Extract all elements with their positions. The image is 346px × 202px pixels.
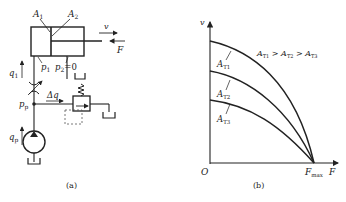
label-A2: A2 — [67, 9, 79, 20]
pilot-line-dashed — [65, 110, 82, 124]
origin-label: O — [201, 167, 209, 177]
label-p1: p1 — [41, 62, 50, 73]
fmax-label: Fmax — [304, 167, 324, 178]
label-dq: Δq — [46, 90, 59, 100]
throttle-valve — [28, 81, 42, 95]
label-v: v — [104, 22, 109, 31]
label-AT1: AT1 — [216, 59, 230, 70]
relation-label: AT1 > AT2 > AT3 — [256, 49, 318, 59]
hydraulic-cylinder — [31, 27, 102, 56]
label-p2: p2=0 — [55, 62, 77, 73]
diagram-canvas: A1 A2 v F p1 p2=0 q1 pp — [0, 0, 346, 202]
panel-a-circuit: A1 A2 v F p1 p2=0 q1 pp — [9, 9, 125, 190]
curve-AT1 — [210, 41, 314, 163]
label-AT3: AT3 — [216, 114, 231, 125]
label-q1: q1 — [9, 68, 18, 79]
label-AT2: AT2 — [216, 89, 230, 100]
panel-b-chart: v F O Fmax AT1 AT2 AT3 AT1 > AT2 > AT3 (… — [200, 18, 338, 190]
x-axis-label: F — [328, 167, 336, 177]
y-axis-label: v — [200, 18, 205, 27]
tank-relief — [103, 112, 115, 118]
label-F: F — [116, 45, 124, 55]
caption-a: (a) — [66, 181, 77, 190]
tank-cylinder-return — [75, 73, 85, 79]
leader-A1 — [40, 19, 50, 32]
curve-AT3 — [210, 100, 314, 163]
caption-b: (b) — [253, 181, 264, 190]
label-pp: pp — [19, 99, 28, 111]
pump-icon — [23, 131, 45, 153]
label-A1: A1 — [32, 9, 43, 20]
label-qp: qp — [9, 132, 18, 144]
spring-icon — [78, 84, 84, 96]
